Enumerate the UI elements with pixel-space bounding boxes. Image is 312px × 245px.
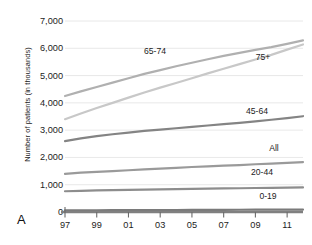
plot-area [0,0,312,245]
series-label-45-64: 45-64 [246,106,268,116]
series-label-65-74: 65-74 [144,46,166,56]
series-label-all: All [269,143,279,153]
series-label-0-19: 0-19 [259,191,276,201]
series-label-75plus: 75+ [256,52,271,62]
chart-figure-a: Number of patients (in thousands) 01,000… [0,0,312,245]
series-label-20-44: 20-44 [251,167,273,177]
gridlines [65,21,303,185]
panel-letter: A [17,212,26,227]
